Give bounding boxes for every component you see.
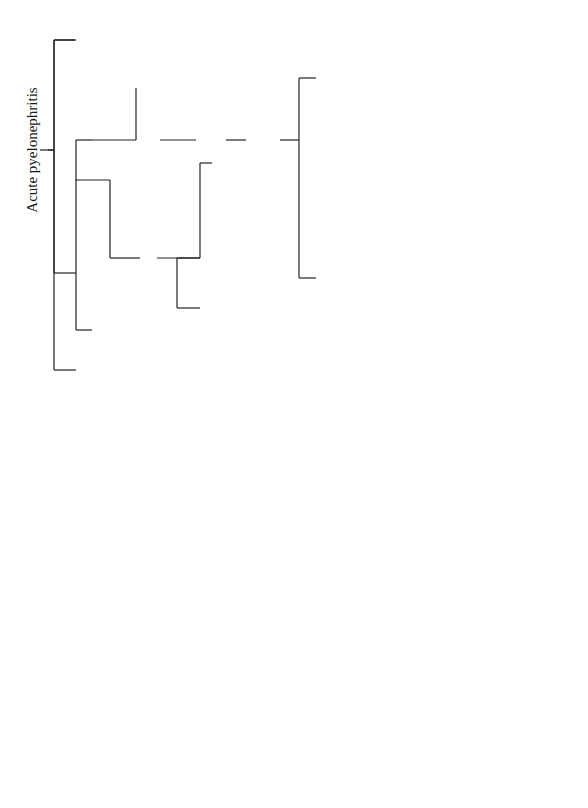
node-root: Acute pyelonephritis [24,85,40,214]
flow-edges [0,0,588,808]
flowchart-stage: Acute pyelonephritis [0,0,588,808]
